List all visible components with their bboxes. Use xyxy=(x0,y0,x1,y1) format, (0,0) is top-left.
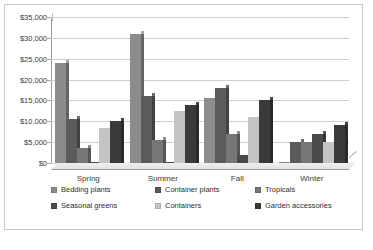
bar[interactable] xyxy=(248,117,259,163)
y-axis-tick-label: $10,000 xyxy=(20,117,47,126)
bar[interactable] xyxy=(323,142,334,163)
legend-item[interactable]: Garden accessories xyxy=(255,201,351,210)
legend-label: Container plants xyxy=(165,185,220,194)
bar[interactable] xyxy=(312,134,323,163)
bar[interactable] xyxy=(185,105,196,163)
bar[interactable] xyxy=(174,111,185,163)
chart-legend: Bedding plantsContainer plantsTropicalsS… xyxy=(51,185,351,210)
y-axis-tick-label: $5,000 xyxy=(24,138,47,147)
bar[interactable] xyxy=(99,128,110,163)
bar-group: Fall xyxy=(200,17,275,163)
bar-top xyxy=(196,102,199,105)
chart-container: $0$5,000$10,000$15,000$20,000$25,000$30,… xyxy=(4,4,363,230)
legend-swatch-icon xyxy=(255,203,261,209)
bar-slot xyxy=(204,17,215,163)
bar-slot xyxy=(301,17,312,163)
y-axis-tick-label: $30,000 xyxy=(20,33,47,42)
plot-canvas: SpringSummerFallWinter xyxy=(51,17,349,163)
bar[interactable] xyxy=(130,34,141,163)
y-axis-tick xyxy=(46,163,51,164)
bar-face xyxy=(279,162,290,163)
bar-top xyxy=(345,122,348,125)
bar[interactable] xyxy=(237,155,248,163)
bar-face xyxy=(174,111,185,163)
bar-face xyxy=(99,128,110,163)
bar[interactable] xyxy=(334,125,345,163)
bar-face xyxy=(312,134,323,163)
chart-floor xyxy=(51,162,356,170)
bar[interactable] xyxy=(110,121,121,163)
bar-slot xyxy=(248,17,259,163)
bar[interactable] xyxy=(226,134,237,163)
legend-label: Seasonal greens xyxy=(61,201,117,210)
bar-group-bars xyxy=(126,17,201,163)
legend-item[interactable]: Container plants xyxy=(155,185,255,194)
bar-slot xyxy=(334,17,345,163)
bar-top xyxy=(121,118,124,121)
bar-face xyxy=(237,155,248,163)
bar-face xyxy=(334,125,345,163)
bar-slot xyxy=(174,17,185,163)
bar[interactable] xyxy=(290,142,301,163)
legend-swatch-icon xyxy=(51,187,57,193)
legend-item[interactable]: Tropicals xyxy=(255,185,351,194)
bar[interactable] xyxy=(215,88,226,163)
bar[interactable] xyxy=(77,148,88,163)
bar[interactable] xyxy=(279,162,290,163)
bar-side xyxy=(121,121,124,163)
bar-slot xyxy=(66,17,77,163)
bar[interactable] xyxy=(55,63,66,163)
bar-face xyxy=(66,119,77,163)
legend-swatch-icon xyxy=(155,203,161,209)
bar-face xyxy=(248,117,259,163)
bar-face xyxy=(130,34,141,163)
bar-side xyxy=(270,100,273,163)
legend-swatch-icon xyxy=(51,203,57,209)
bar-face xyxy=(290,142,301,163)
bar-face xyxy=(55,63,66,163)
bar-slot xyxy=(237,17,248,163)
legend-label: Bedding plants xyxy=(61,185,111,194)
bar-face xyxy=(323,142,334,163)
bar-slot xyxy=(163,17,174,163)
bar-face xyxy=(226,134,237,163)
bar-face xyxy=(141,96,152,163)
bar[interactable] xyxy=(88,162,99,163)
x-axis-category-label: Fall xyxy=(200,174,275,183)
bar[interactable] xyxy=(301,142,312,163)
bar-slot xyxy=(185,17,196,163)
bar-group: Winter xyxy=(275,17,350,163)
bar-face xyxy=(301,142,312,163)
legend-label: Garden accessories xyxy=(265,201,332,210)
legend-item[interactable]: Containers xyxy=(155,201,255,210)
bar[interactable] xyxy=(259,100,270,163)
bar-group-bars xyxy=(200,17,275,163)
legend-item[interactable]: Bedding plants xyxy=(51,185,155,194)
bar[interactable] xyxy=(141,96,152,163)
legend-swatch-icon xyxy=(155,187,161,193)
bar-slot xyxy=(88,17,99,163)
bar-side xyxy=(196,105,199,163)
y-axis-tick-label: $15,000 xyxy=(20,96,47,105)
legend-item[interactable]: Seasonal greens xyxy=(51,201,155,210)
bar-slot xyxy=(77,17,88,163)
y-axis-tick-label: $35,000 xyxy=(20,13,47,22)
y-axis-labels: $0$5,000$10,000$15,000$20,000$25,000$30,… xyxy=(5,17,47,163)
bar[interactable] xyxy=(152,140,163,163)
bar-face xyxy=(77,148,88,163)
bar[interactable] xyxy=(163,162,174,163)
legend-swatch-icon xyxy=(255,187,261,193)
bar-group-bars xyxy=(51,17,126,163)
x-axis-category-label: Summer xyxy=(126,174,201,183)
bar[interactable] xyxy=(66,119,77,163)
y-axis-tick-label: $20,000 xyxy=(20,75,47,84)
bar-slot xyxy=(312,17,323,163)
legend-label: Containers xyxy=(165,201,201,210)
bar[interactable] xyxy=(204,98,215,163)
bar-slot xyxy=(323,17,334,163)
bar-groups: SpringSummerFallWinter xyxy=(51,17,349,163)
bar-slot xyxy=(130,17,141,163)
x-axis-category-label: Spring xyxy=(51,174,126,183)
bar-slot xyxy=(152,17,163,163)
bar-slot xyxy=(141,17,152,163)
